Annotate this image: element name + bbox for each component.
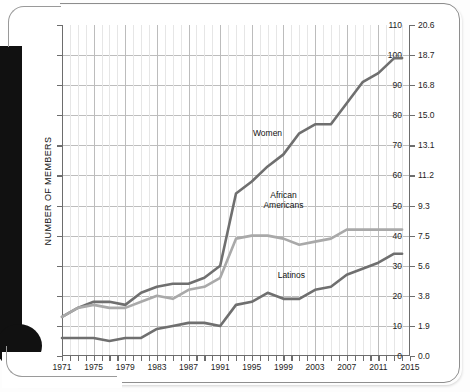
x-axis-tick bbox=[204, 356, 205, 361]
x-axis-tick bbox=[62, 356, 63, 361]
y-axis-right-tick-label: 3.8 bbox=[418, 291, 430, 301]
y-axis-right-tick-label: 5.6 bbox=[418, 261, 430, 271]
x-axis-tick bbox=[307, 356, 308, 361]
scan-edge-strip bbox=[0, 14, 22, 344]
x-axis-tick bbox=[339, 356, 340, 361]
x-axis-tick bbox=[149, 356, 150, 361]
x-axis-tick-label: 2015 bbox=[401, 362, 420, 372]
x-axis-tick bbox=[181, 356, 182, 361]
x-axis-tick-label: 2011 bbox=[369, 362, 387, 372]
axis-tick bbox=[410, 266, 415, 267]
x-axis-tick bbox=[165, 356, 166, 361]
plot-area: 0102030405060708090100110 0.01.93.85.67.… bbox=[62, 25, 410, 356]
x-axis-tick bbox=[355, 356, 356, 361]
x-axis-tick bbox=[315, 356, 316, 361]
axis-tick bbox=[410, 55, 415, 56]
x-axis-tick bbox=[157, 356, 158, 361]
axis-tick bbox=[410, 296, 415, 297]
series-label-african-americans-line1: African bbox=[270, 190, 296, 200]
series-label-african-americans: African Americans bbox=[263, 190, 303, 210]
x-axis-tick bbox=[117, 356, 118, 361]
x-axis-tick-label: 1971 bbox=[53, 362, 72, 372]
x-axis-tick bbox=[133, 356, 134, 361]
x-axis-tick bbox=[370, 356, 371, 361]
x-axis-tick bbox=[220, 356, 221, 361]
series-lines bbox=[62, 25, 410, 356]
x-axis-tick-label: 2003 bbox=[306, 362, 325, 372]
axis-tick bbox=[410, 145, 415, 146]
x-axis-tick bbox=[299, 356, 300, 361]
x-axis-tick bbox=[394, 356, 395, 361]
x-axis-tick bbox=[141, 356, 142, 361]
x-axis-tick-label: 1975 bbox=[84, 362, 103, 372]
axis-tick bbox=[410, 326, 415, 327]
y-axis-right-tick-label: 11.2 bbox=[418, 170, 434, 180]
y-axis-left-title: NUMBER OF MEMBERS bbox=[43, 136, 53, 245]
x-axis-tick bbox=[283, 356, 284, 361]
y-axis-right-tick-label: 9.3 bbox=[418, 201, 430, 211]
x-axis-tick bbox=[244, 356, 245, 361]
axis-tick bbox=[410, 115, 415, 116]
x-axis-tick bbox=[125, 356, 126, 361]
axis-tick bbox=[410, 85, 415, 86]
x-axis-tick bbox=[291, 356, 292, 361]
frame-corner-top-left bbox=[0, 0, 60, 46]
series-label-african-americans-line2: Americans bbox=[263, 200, 303, 210]
x-axis-tick bbox=[78, 356, 79, 361]
x-axis-tick bbox=[363, 356, 364, 361]
x-axis-tick-label: 1979 bbox=[116, 362, 135, 372]
chart-page: 0102030405060708090100110 0.01.93.85.67.… bbox=[0, 0, 470, 392]
x-axis-tick bbox=[268, 356, 269, 361]
x-axis-tick bbox=[331, 356, 332, 361]
series-line-women bbox=[62, 58, 402, 317]
x-axis-tick-label: 2007 bbox=[337, 362, 356, 372]
x-axis-tick bbox=[109, 356, 110, 361]
x-axis-tick bbox=[196, 356, 197, 361]
axis-tick bbox=[410, 25, 415, 26]
axis-tick bbox=[410, 206, 415, 207]
x-axis-tick-label: 1987 bbox=[179, 362, 198, 372]
x-axis-tick bbox=[173, 356, 174, 361]
axis-tick bbox=[410, 175, 415, 176]
series-line-latinos bbox=[62, 254, 402, 341]
x-axis-tick-label: 1983 bbox=[147, 362, 166, 372]
x-axis-tick bbox=[386, 356, 387, 361]
x-axis-tick bbox=[276, 356, 277, 361]
x-axis-tick bbox=[347, 356, 348, 361]
y-axis-right-tick-label: 0.0 bbox=[418, 351, 430, 361]
x-axis-tick-label: 1999 bbox=[274, 362, 293, 372]
x-axis-tick bbox=[189, 356, 190, 361]
x-axis-tick bbox=[236, 356, 237, 361]
x-axis-tick bbox=[252, 356, 253, 361]
y-axis-right-tick-label: 20.6 bbox=[418, 20, 435, 30]
y-axis-right-tick-label: 1.9 bbox=[418, 321, 430, 331]
x-axis-tick bbox=[94, 356, 95, 361]
x-axis-tick-label: 1995 bbox=[242, 362, 261, 372]
x-axis-tick bbox=[260, 356, 261, 361]
x-axis-tick bbox=[70, 356, 71, 361]
x-axis-tick bbox=[212, 356, 213, 361]
x-axis-tick bbox=[102, 356, 103, 361]
series-label-women: Women bbox=[253, 128, 282, 138]
y-axis-right-tick-label: 18.7 bbox=[418, 50, 435, 60]
y-axis-right-tick-label: 7.5 bbox=[418, 231, 430, 241]
y-axis-right-tick-label: 16.8 bbox=[418, 80, 435, 90]
x-axis-tick bbox=[378, 356, 379, 361]
x-axis-tick bbox=[86, 356, 87, 361]
y-axis-right-tick-label: 13.1 bbox=[418, 140, 435, 150]
x-axis-tick bbox=[228, 356, 229, 361]
axis-tick bbox=[410, 236, 415, 237]
x-axis-tick-label: 1991 bbox=[211, 362, 230, 372]
series-label-latinos: Latinos bbox=[278, 270, 305, 280]
x-axis-tick bbox=[410, 356, 411, 361]
y-axis-right-tick-label: 15.0 bbox=[418, 110, 435, 120]
x-axis-tick bbox=[323, 356, 324, 361]
